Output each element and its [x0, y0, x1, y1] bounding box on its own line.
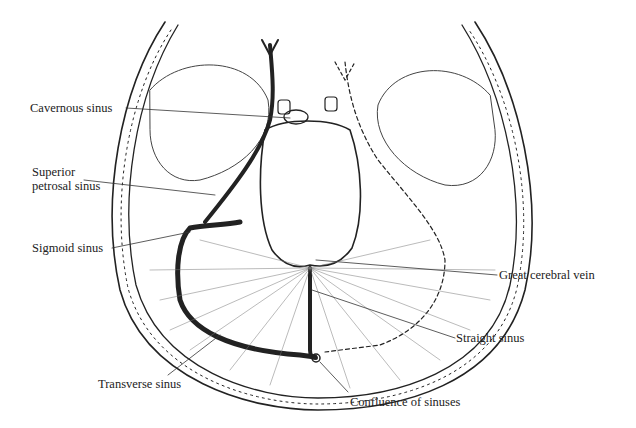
leader-lines	[84, 108, 497, 392]
tentorial-notch	[260, 121, 360, 266]
right-middle-fossa	[377, 71, 495, 186]
right-sinus-dashed	[325, 62, 445, 352]
sigmoid-sinus-vessel	[178, 222, 315, 357]
leader-cavernous	[126, 108, 290, 118]
label-sigmoid-sinus: Sigmoid sinus	[32, 241, 103, 255]
leader-transverse	[168, 335, 220, 375]
leader-confluence	[320, 362, 348, 392]
leader-great-cerebral	[316, 260, 497, 275]
label-transverse-sinus: Transverse sinus	[98, 377, 181, 391]
superior-petrosal-sinus	[205, 45, 273, 222]
label-superior-petrosal-sinus-line2: petrosal sinus	[32, 179, 100, 193]
tentorium-hatching	[150, 240, 495, 388]
anatomy-figure: Cavernous sinus Superior petrosal sinus …	[0, 0, 636, 428]
label-confluence-of-sinuses: Confluence of sinuses	[350, 395, 460, 409]
label-straight-sinus: Straight sinus	[456, 331, 524, 345]
label-great-cerebral-vein: Great cerebral vein	[499, 268, 595, 282]
straight-sinus-vessel	[310, 268, 316, 358]
leader-straight	[312, 290, 455, 338]
label-superior-petrosal-sinus-line1: Superior	[32, 165, 75, 179]
label-cavernous-sinus: Cavernous sinus	[30, 101, 112, 115]
skull-illustration	[0, 0, 636, 428]
leader-superior-petrosal	[84, 180, 215, 195]
